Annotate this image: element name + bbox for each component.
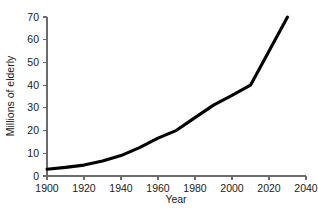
x-tick-label: 1900 [35,182,59,194]
x-tick-label: 2000 [220,182,244,194]
y-tick-label: 40 [27,79,39,91]
x-tick-label: 1940 [109,182,133,194]
y-tick-label: 30 [27,101,39,113]
y-tick-label: 20 [27,124,39,136]
y-tick-label: 50 [27,56,39,68]
y-tick-label: 0 [33,170,39,182]
x-tick-label: 1920 [72,182,96,194]
chart-container: 010203040506070 190019201940196019802000… [0,0,318,214]
x-tick-label: 2020 [257,182,281,194]
x-tick-label: 1980 [183,182,207,194]
x-tick-label: 1960 [146,182,170,194]
y-tick-label: 10 [27,147,39,159]
line-chart: 010203040506070 190019201940196019802000… [0,0,318,214]
y-tick-label: 60 [27,33,39,45]
y-tick-label: 70 [27,11,39,23]
x-tick-label: 2040 [294,182,318,194]
x-axis-title: Year [165,193,187,205]
y-axis-title: Millions of elderly [4,55,16,136]
